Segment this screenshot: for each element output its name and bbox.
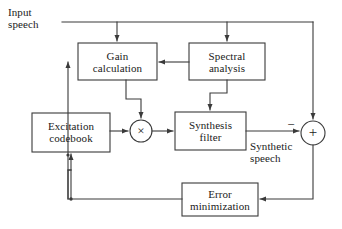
- spectral-to-synthesis-path: [210, 80, 227, 110]
- block-synthesis-filter: [175, 112, 246, 150]
- summer-circle: [301, 121, 325, 145]
- connector-lines: [62, 22, 313, 201]
- summer-to-error-path: [260, 145, 313, 199]
- junction-dot-gain-feedback: [66, 153, 69, 156]
- block-spectral-analysis: [189, 43, 265, 80]
- multiplier-circle: [130, 120, 152, 142]
- diagram-svg: [0, 0, 342, 229]
- block-gain-calculation: [78, 43, 157, 80]
- operator-circles: [130, 120, 325, 145]
- gain-to-multiplier-path: [126, 80, 141, 118]
- diagram-canvas: Gain calculation Spectral analysis Excit…: [0, 0, 342, 229]
- block-excitation-codebook: [32, 113, 110, 152]
- block-error-minimization: [182, 183, 258, 216]
- junction-dot-codebook-feedback: [69, 197, 72, 200]
